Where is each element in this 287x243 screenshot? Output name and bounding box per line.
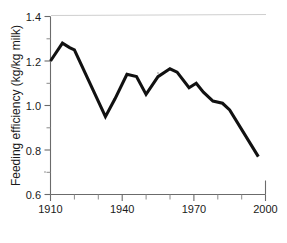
- y-tick-label-1-0: 1.0: [26, 100, 41, 112]
- y-tick-label-1-4: 1.4: [26, 11, 41, 23]
- x-tick-label-1910: 1910: [38, 203, 62, 215]
- scan-speck: [44, 171, 46, 173]
- scan-speck: [157, 72, 159, 74]
- y-tick-label-1-2: 1.2: [26, 56, 41, 68]
- x-tick-label-2000: 2000: [253, 203, 277, 215]
- y-tick-label-0-8: 0.8: [26, 145, 41, 157]
- x-tick-label-1940: 1940: [110, 203, 134, 215]
- x-tick-label-1970: 1970: [182, 203, 206, 215]
- y-axis-title: Feeding efficiency (kg/kg milk): [9, 25, 23, 186]
- line-chart: 1.4 1.2 1.0 0.8 0.6 1910 1940 1970 2000 …: [0, 0, 287, 243]
- chart-figure: 1.4 1.2 1.0 0.8 0.6 1910 1940 1970 2000 …: [0, 0, 287, 243]
- y-tick-label-0-6: 0.6: [26, 189, 41, 201]
